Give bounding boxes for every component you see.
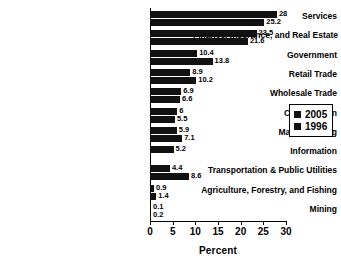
bar-2005	[150, 11, 277, 18]
bar-value-label: 13.8	[215, 57, 230, 65]
bar-value-label: 6.6	[182, 95, 192, 103]
chart-row: Retail Trade8.910.2	[0, 69, 341, 85]
chart-row: Services2825.2	[0, 11, 341, 27]
x-tick	[195, 221, 196, 225]
bar-value-label: 21.6	[250, 37, 265, 45]
bar-1996	[150, 212, 151, 219]
chart-row: Government10.413.8	[0, 50, 341, 66]
chart-row: Transportation & Public Utilities4.48.6	[0, 165, 341, 181]
x-tick-label: 30	[276, 226, 296, 237]
x-tick-label: 15	[208, 226, 228, 237]
bar-2005	[150, 146, 174, 153]
bar-chart: 051015202530 Percent Services2825.2Finan…	[0, 0, 341, 265]
category-label: Information	[193, 147, 341, 156]
bar-1996	[150, 135, 182, 142]
bar-value-label: 7.1	[184, 134, 194, 142]
category-label: Mining	[193, 205, 341, 214]
x-tick-label: 10	[185, 226, 205, 237]
category-label: Wholesale Trade	[193, 89, 341, 98]
bar-2005	[150, 88, 181, 95]
bar-2005	[150, 204, 151, 211]
x-tick-label: 25	[253, 226, 273, 237]
category-label: Transportation & Public Utilities	[193, 166, 341, 175]
legend-label-2005: 2005	[305, 109, 327, 120]
bar-1996	[150, 77, 196, 84]
x-tick	[150, 221, 151, 225]
legend-swatch-icon	[294, 111, 301, 118]
chart-row: Wholesale Trade6.96.6	[0, 88, 341, 104]
bar-value-label: 0.2	[153, 211, 163, 219]
chart-row: Finance, Insurance, and Real Estate23.52…	[0, 30, 341, 46]
x-tick	[286, 221, 287, 225]
bar-1996	[150, 116, 175, 123]
bar-2005	[150, 165, 170, 172]
bar-value-label: 5.2	[176, 145, 186, 153]
bar-value-label: 4.4	[172, 164, 182, 172]
bar-value-label: 10.4	[199, 49, 214, 57]
chart-row: Agriculture, Forestry, and Fishing0.91.4	[0, 185, 341, 201]
bar-2005	[150, 127, 177, 134]
bar-value-label: 5.5	[177, 115, 187, 123]
bar-value-label: 10.2	[198, 76, 213, 84]
bar-1996	[150, 193, 156, 200]
x-axis-title: Percent	[150, 245, 286, 256]
chart-legend: 2005 1996	[289, 104, 333, 137]
bar-1996	[150, 96, 180, 103]
bar-value-label: 1.4	[158, 192, 168, 200]
x-tick	[218, 221, 219, 225]
bar-1996	[150, 173, 189, 180]
x-tick	[263, 221, 264, 225]
bar-1996	[150, 19, 264, 26]
x-tick	[173, 221, 174, 225]
bar-2005	[150, 30, 257, 37]
category-label: Agriculture, Forestry, and Fishing	[193, 186, 341, 195]
x-tick-label: 5	[163, 226, 183, 237]
chart-row: Mining0.10.2	[0, 204, 341, 220]
legend-swatch-icon	[294, 123, 301, 130]
bar-1996	[150, 38, 248, 45]
chart-row: Information5.2	[0, 146, 341, 162]
bar-1996	[150, 58, 213, 65]
legend-label-1996: 1996	[305, 121, 327, 132]
x-tick	[241, 221, 242, 225]
x-tick-label: 0	[140, 226, 160, 237]
legend-item-2005: 2005	[294, 109, 327, 120]
x-tick-label: 20	[231, 226, 251, 237]
category-label: Retail Trade	[193, 70, 341, 79]
bar-2005	[150, 50, 197, 57]
legend-item-1996: 1996	[294, 121, 327, 132]
bar-value-label: 25.2	[266, 18, 281, 26]
bar-2005	[150, 185, 154, 192]
bar-2005	[150, 69, 190, 76]
bar-2005	[150, 108, 177, 115]
bar-value-label: 8.6	[191, 172, 201, 180]
